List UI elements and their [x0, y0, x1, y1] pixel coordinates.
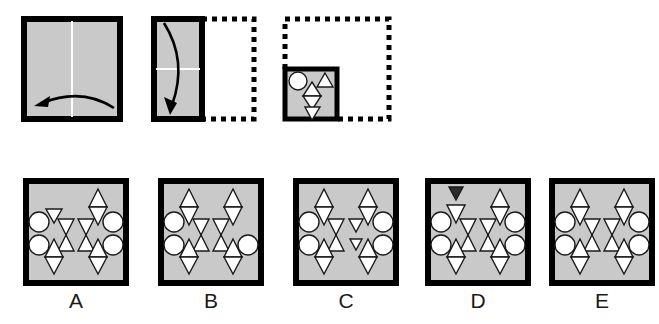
option-e[interactable]: E — [548, 177, 656, 287]
option-a[interactable]: A — [22, 177, 130, 287]
circle-punch — [299, 235, 319, 255]
fold-step-1-graphic — [20, 15, 124, 123]
circle-punch — [629, 235, 649, 255]
fold-step-2 — [150, 15, 260, 123]
fold-step-3-graphic — [281, 15, 393, 123]
circle-punch — [629, 212, 649, 232]
circle-punch — [373, 212, 393, 232]
ghost-outline-dotted — [202, 19, 254, 119]
circle-punch — [164, 235, 184, 255]
option-e-graphic[interactable] — [548, 177, 656, 287]
puzzle-stage: A B — [0, 0, 659, 324]
option-b[interactable]: B — [157, 177, 265, 287]
option-e-label: E — [548, 289, 656, 313]
circle-punch — [431, 235, 451, 255]
circle-punch — [29, 212, 49, 232]
circle-punch — [431, 212, 451, 232]
option-d-label: D — [424, 289, 532, 313]
option-d-graphic[interactable] — [424, 177, 532, 287]
circle-punch — [289, 72, 307, 90]
option-b-label: B — [157, 289, 265, 313]
option-c[interactable]: C — [292, 177, 400, 287]
circle-punch — [238, 235, 258, 255]
circle-punch — [103, 235, 123, 255]
circle-punch — [505, 235, 525, 255]
fold-step-2-graphic — [150, 15, 260, 123]
fold-step-3 — [281, 15, 393, 123]
circle-punch — [29, 235, 49, 255]
circle-punch — [164, 212, 184, 232]
circle-punch — [555, 235, 575, 255]
option-a-label: A — [22, 289, 130, 313]
option-b-graphic[interactable] — [157, 177, 265, 287]
fold-step-1 — [20, 15, 124, 123]
circle-punch — [103, 212, 123, 232]
circle-punch — [373, 235, 393, 255]
circle-punch — [505, 212, 525, 232]
option-c-label: C — [292, 289, 400, 313]
circle-punch — [299, 212, 319, 232]
option-d[interactable]: D — [424, 177, 532, 287]
option-c-graphic[interactable] — [292, 177, 400, 287]
circle-punch — [555, 212, 575, 232]
option-a-graphic[interactable] — [22, 177, 130, 287]
